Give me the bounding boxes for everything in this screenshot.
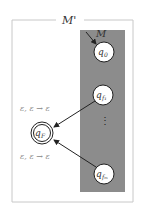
state-q0[interactable]: q 0 bbox=[94, 42, 114, 62]
outer-machine-label: M' bbox=[61, 14, 76, 27]
state-qF[interactable]: q F bbox=[31, 122, 53, 144]
transition-label-1: ε, ε → ε bbox=[20, 104, 50, 113]
automaton-diagram: M' M q 0 q f₁ ⋮ q fₘ q F ε, ε → ε ε, ε →… bbox=[0, 0, 143, 215]
state-q0-sub: 0 bbox=[104, 51, 108, 58]
inner-machine-label: M bbox=[95, 28, 107, 39]
state-qfm[interactable]: q fₘ bbox=[94, 164, 114, 184]
state-qF-sub: F bbox=[40, 132, 46, 139]
transition-label-2: ε, ε → ε bbox=[20, 152, 50, 161]
state-qf1-sub: f₁ bbox=[101, 94, 107, 102]
state-qf1[interactable]: q f₁ bbox=[93, 85, 113, 105]
state-qfm-sub: fₘ bbox=[101, 173, 108, 181]
ellipsis: ⋮ bbox=[100, 115, 110, 126]
